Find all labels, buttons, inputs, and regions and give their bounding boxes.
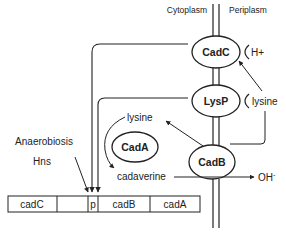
lysp-label: LysP: [204, 95, 229, 107]
cadc-receptor-arc: [245, 45, 249, 59]
cytoplasm-label: Cytoplasm: [167, 5, 207, 15]
gene-cadc-label: cadC: [20, 199, 43, 210]
cadaverine-label: cadaverine: [117, 171, 166, 182]
proton-label: H+: [251, 47, 264, 58]
gene-cadb-label: cadB: [113, 199, 136, 210]
cadc-protein: CadC: [192, 36, 240, 68]
anaerobiosis-label: Anaerobiosis: [15, 136, 73, 147]
hns-label: Hns: [33, 156, 51, 167]
lysine-sensing-arrow: [239, 61, 262, 91]
gene-cada-label: cadA: [164, 199, 187, 210]
cadb-protein: CadB: [189, 145, 235, 179]
lysine-to-cadb-line: [230, 111, 265, 144]
lysp-protein: LysP: [192, 85, 240, 117]
periplasmic-lysine-label: lysine: [252, 96, 278, 107]
cadc-label: CadC: [202, 46, 230, 58]
cada-enzyme: CadA: [112, 132, 158, 162]
cada-label: CadA: [121, 141, 149, 153]
cadb-label: CadB: [198, 156, 226, 168]
cytoplasmic-lysine-label: lysine: [127, 112, 153, 123]
lysp-receptor-arc: [245, 94, 249, 108]
promoter-label: p: [90, 199, 96, 210]
lysine-import-arrow: [166, 121, 203, 146]
periplasm-label: Periplasm: [229, 5, 267, 15]
cad-system-diagram: Cytoplasm Periplasm CadC H+ LysP lysine …: [0, 0, 286, 232]
anaerobiosis-hns-arrow: [75, 157, 88, 192]
hydroxide-label: OH-: [258, 171, 276, 183]
